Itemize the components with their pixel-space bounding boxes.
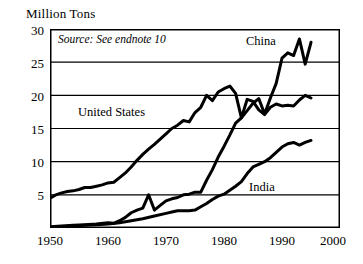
series-paths [50,39,311,227]
x-axis-tick-1950: 1950 [22,234,78,247]
x-axis-tick-2000: 2000 [305,234,361,247]
y-axis-tick-20: 20 [2,90,44,103]
y-axis-tick-30: 30 [2,24,44,37]
x-axis-tick-1960: 1960 [80,234,136,247]
x-axis-tick-1990: 1990 [254,234,310,247]
source-note: Source: See endnote 10 [58,33,166,45]
chart-title: Million Tons [26,6,96,22]
y-axis-tick-5: 5 [2,189,44,202]
y-axis-tick-10: 10 [2,156,44,169]
y-axis-tick-15: 15 [2,123,44,136]
x-axis-tick-1970: 1970 [138,234,194,247]
y-axis-tick-25: 25 [2,57,44,70]
gridlines [50,62,340,195]
chart-container: Million Tons 30 25 20 15 10 5 1950 1960 … [0,0,363,264]
series-line-china [50,39,311,227]
plot-area [50,29,340,228]
plot-svg [50,29,340,228]
series-label-china: China [246,34,276,49]
series-label-united-states: United States [78,105,145,120]
x-axis-tick-1980: 1980 [196,234,252,247]
series-label-india: India [249,180,275,195]
